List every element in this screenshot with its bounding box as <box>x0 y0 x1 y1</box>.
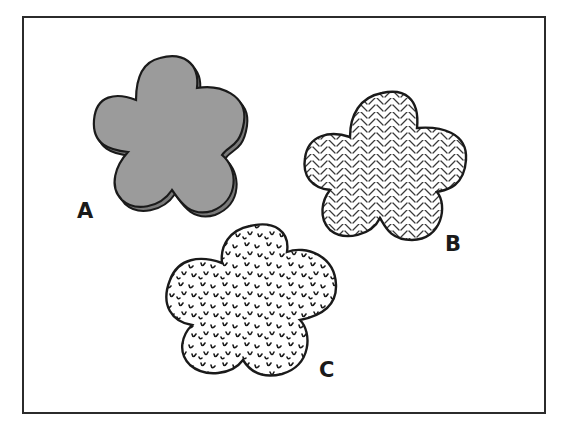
shape-b-body <box>304 92 466 240</box>
label-c: C <box>319 360 334 381</box>
label-a: A <box>77 201 93 222</box>
shape-c <box>166 224 336 375</box>
shape-b <box>304 92 466 240</box>
label-b: B <box>445 234 461 255</box>
shape-a <box>94 56 248 216</box>
shape-c-body <box>166 224 336 375</box>
illustration: A B C <box>0 0 561 421</box>
shape-a-body <box>94 56 245 212</box>
